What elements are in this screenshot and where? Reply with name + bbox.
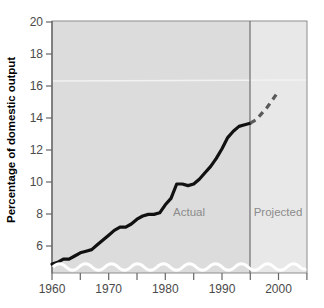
- y-tick-label-10: 10: [30, 175, 44, 189]
- annotation-actual: Actual: [173, 206, 205, 218]
- plot-bg-actual: [52, 21, 250, 273]
- y-tick-label-12: 12: [30, 143, 44, 157]
- y-tick-label-14: 14: [30, 111, 44, 125]
- x-tick-label-1960: 1960: [39, 282, 66, 296]
- chart-plot-area: 20 18 16 14 12 10 8 6 1960 1970 198: [0, 0, 324, 308]
- x-tick-label-1970: 1970: [95, 282, 122, 296]
- plot-bg-projected: [250, 21, 307, 273]
- y-tick-label-18: 18: [30, 47, 44, 61]
- y-tick-label-16: 16: [30, 79, 44, 93]
- x-tick-marks: [52, 273, 307, 280]
- y-tick-label-20: 20: [30, 15, 44, 29]
- x-tick-label-1980: 1980: [152, 282, 179, 296]
- annotation-projected: Projected: [254, 206, 303, 218]
- y-tick-marks: [46, 22, 52, 246]
- y-tick-label-6: 6: [36, 239, 43, 253]
- y-tick-label-8: 8: [36, 207, 43, 221]
- scanline-artifact: [52, 80, 307, 81]
- x-tick-label-1990: 1990: [209, 282, 236, 296]
- chart-figure: Percentage of domestic output 20 18 16: [0, 0, 324, 308]
- x-tick-label-2000: 2000: [265, 282, 292, 296]
